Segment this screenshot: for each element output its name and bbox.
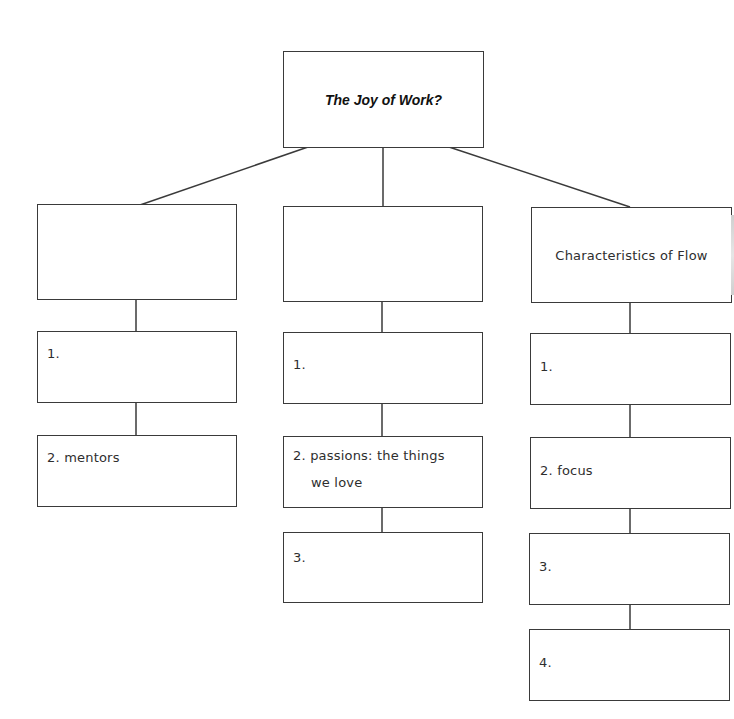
right-item-4-box[interactable]: 4. <box>529 629 730 701</box>
middle-item-2-continuation: we love <box>311 470 362 496</box>
right-item-1-text: 1. <box>540 354 553 380</box>
middle-item-3-text: 3. <box>293 545 306 571</box>
title-box: The Joy of Work? <box>283 51 484 148</box>
middle-heading-text <box>284 207 482 301</box>
right-heading-text: Characteristics of Flow <box>532 208 731 302</box>
right-item-3-box[interactable]: 3. <box>529 533 730 605</box>
right-heading-box[interactable]: Characteristics of Flow <box>531 207 732 303</box>
right-item-2-box[interactable]: 2. focus <box>530 437 731 509</box>
left-item-1-box[interactable]: 1. <box>37 331 237 403</box>
left-item-2-box[interactable]: 2. mentors <box>37 435 237 507</box>
right-item-3-text: 3. <box>539 554 552 580</box>
right-item-2-text: 2. focus <box>540 458 593 484</box>
right-item-4-text: 4. <box>539 650 552 676</box>
middle-item-1-text: 1. <box>293 352 306 378</box>
right-item-1-box[interactable]: 1. <box>530 333 731 405</box>
left-item-1-text: 1. <box>47 341 60 367</box>
left-heading-box[interactable] <box>37 204 237 300</box>
left-heading-text <box>38 205 236 299</box>
diagram-title: The Joy of Work? <box>284 52 483 147</box>
middle-heading-box[interactable] <box>283 206 483 302</box>
middle-item-3-box[interactable]: 3. <box>283 532 483 603</box>
middle-item-2-text: 2. passions: the things <box>293 443 445 469</box>
middle-item-1-box[interactable]: 1. <box>283 332 483 404</box>
left-item-2-text: 2. mentors <box>47 445 120 471</box>
middle-item-2-box[interactable]: 2. passions: the things we love <box>283 436 483 508</box>
